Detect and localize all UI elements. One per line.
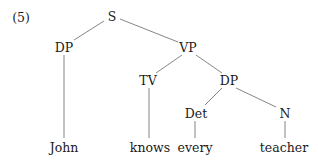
tree-edge-s-dp1 — [74, 21, 104, 40]
tree-edge-s-vp — [120, 19, 178, 42]
tree-edge-vp-tv — [156, 55, 182, 73]
tree-node-dp2: DP — [220, 73, 238, 88]
tree-node-s: S — [108, 9, 117, 24]
syntax-tree: (5) SDPVPJohnTVDPknowsDetNeveryteacher — [0, 0, 318, 162]
tree-node-teacher: teacher — [260, 140, 308, 155]
tree-edge-vp-dp2 — [196, 55, 222, 73]
tree-node-n: N — [280, 106, 291, 121]
example-number: (5) — [12, 10, 30, 25]
tree-labels: (5) SDPVPJohnTVDPknowsDetNeveryteacher — [12, 9, 308, 155]
tree-node-john: John — [48, 140, 79, 155]
tree-node-det: Det — [185, 106, 207, 121]
tree-edge-dp2-det — [205, 88, 222, 105]
tree-node-vp: VP — [178, 40, 196, 55]
tree-edges — [64, 19, 285, 138]
tree-edge-dp2-n — [236, 88, 276, 107]
tree-node-every: every — [178, 140, 214, 155]
tree-node-dp1: DP — [55, 40, 73, 55]
tree-node-knows: knows — [130, 140, 170, 155]
tree-node-tv: TV — [139, 73, 157, 88]
